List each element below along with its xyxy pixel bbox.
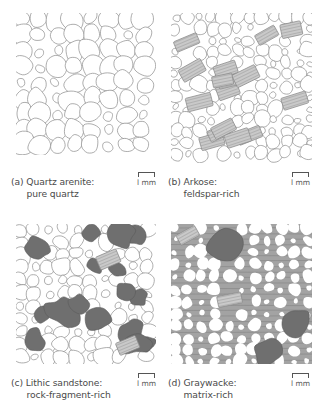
- quartz-grain: [269, 13, 280, 22]
- quartz-grain: [243, 47, 254, 57]
- quartz-grain: [53, 351, 69, 364]
- quartz-grain: [36, 65, 45, 73]
- quartz-grain: [137, 78, 153, 93]
- quartz-grain: [194, 20, 207, 35]
- scale-bar-icon: [292, 172, 309, 177]
- quartz-grain: [53, 110, 63, 120]
- quartz-grain: [300, 144, 312, 159]
- quartz-grain: [232, 44, 244, 56]
- quartz-grain: [232, 22, 241, 33]
- quartz-grain: [70, 258, 85, 276]
- caption-graywacke: (d) Graywacke: matrix-rich: [168, 377, 236, 400]
- graywacke-grain-illustration: [171, 224, 312, 364]
- quartz-grain: [57, 224, 67, 233]
- quartz-arenite-grain-illustration: [16, 13, 156, 155]
- quartz-grain: [16, 349, 30, 363]
- quartz-grain: [50, 78, 58, 86]
- caption-letter: (b): [168, 176, 181, 187]
- quartz-grain: [134, 56, 156, 76]
- quartz-grain: [218, 23, 231, 38]
- panel-quartz-arenite: [16, 13, 156, 155]
- quartz-grain: [16, 313, 27, 324]
- quartz-grain: [302, 333, 312, 344]
- caption-letter: (d): [168, 377, 181, 388]
- quartz-grain: [171, 139, 178, 146]
- caption-subtitle: rock-fragment-rich: [11, 389, 111, 401]
- quartz-grain: [33, 262, 41, 271]
- quartz-grain: [55, 45, 63, 55]
- quartz-grain: [171, 56, 181, 68]
- caption-subtitle: matrix-rich: [168, 389, 236, 401]
- quartz-grain: [46, 291, 54, 298]
- quartz-grain: [118, 138, 134, 151]
- quartz-grain: [256, 92, 268, 105]
- quartz-grain: [99, 90, 118, 108]
- rock-fragment-grain: [82, 224, 101, 242]
- quartz-grain: [30, 28, 45, 40]
- quartz-grain: [196, 13, 202, 20]
- quartz-grain: [16, 326, 27, 336]
- quartz-grain: [254, 110, 270, 127]
- quartz-grain: [16, 272, 26, 285]
- quartz-grain: [307, 62, 312, 67]
- quartz-grain: [140, 110, 148, 119]
- quartz-grain: [138, 95, 149, 105]
- quartz-grain: [297, 60, 304, 67]
- quartz-grain: [255, 79, 267, 92]
- quartz-grain: [16, 225, 26, 238]
- quartz-grain: [254, 145, 267, 159]
- quartz-grain: [173, 15, 180, 22]
- quartz-grain: [120, 90, 135, 107]
- quartz-grain: [242, 113, 254, 124]
- caption-title: Graywacke:: [184, 377, 237, 388]
- quartz-grain: [69, 248, 83, 258]
- quartz-grain: [282, 49, 288, 56]
- quartz-grain: [303, 13, 312, 25]
- quartz-grain: [231, 13, 246, 24]
- quartz-grain: [209, 37, 216, 45]
- arkose-grain-illustration: [171, 13, 312, 163]
- quartz-grain: [266, 68, 280, 80]
- quartz-grain: [101, 290, 110, 298]
- quartz-grain: [254, 13, 269, 25]
- quartz-grain: [193, 148, 208, 162]
- quartz-grain: [103, 112, 112, 122]
- quartz-grain: [52, 258, 71, 276]
- quartz-grain: [270, 82, 277, 88]
- rock-fragment-grain: [25, 328, 45, 351]
- scale-label: l mm: [291, 379, 310, 388]
- quartz-grain: [198, 337, 203, 342]
- quartz-grain: [133, 137, 149, 151]
- quartz-grain: [16, 56, 33, 75]
- quartz-grain: [80, 102, 102, 122]
- quartz-grain: [256, 44, 269, 56]
- caption-quartz-arenite: (a) Quartz arenite: pure quartz: [11, 176, 94, 199]
- caption-subtitle: pure quartz: [11, 188, 94, 200]
- quartz-grain: [124, 31, 133, 39]
- quartz-grain: [27, 275, 39, 287]
- quartz-grain: [186, 151, 191, 157]
- quartz-grain: [241, 36, 254, 46]
- quartz-grain: [31, 354, 38, 360]
- quartz-grain: [105, 124, 113, 134]
- quartz-grain: [241, 100, 253, 113]
- caption-letter: (c): [11, 377, 23, 388]
- rock-fragment-grain: [117, 283, 136, 301]
- lithic-sandstone-grain-illustration: [16, 224, 156, 364]
- quartz-grain: [306, 25, 312, 32]
- caption-title: Lithic sandstone:: [26, 377, 103, 388]
- quartz-grain: [205, 13, 215, 22]
- quartz-grain: [180, 13, 194, 25]
- quartz-grain: [171, 123, 183, 137]
- quartz-grain: [279, 13, 293, 24]
- caption-title: Arkose:: [184, 176, 218, 187]
- quartz-grain: [234, 152, 240, 158]
- quartz-grain: [58, 275, 67, 284]
- quartz-grain: [65, 57, 82, 73]
- feldspar-grain: [254, 25, 279, 46]
- quartz-grain: [271, 61, 276, 68]
- scale-bar-icon: [292, 373, 309, 378]
- quartz-grain: [131, 13, 154, 29]
- quartz-grain: [171, 70, 177, 77]
- panel-arkose: [171, 13, 312, 163]
